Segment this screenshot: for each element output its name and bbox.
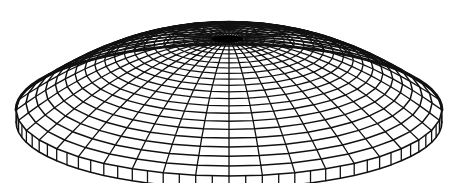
dome-meridian — [243, 41, 418, 140]
dome-meridian — [39, 41, 215, 140]
dome-figure — [0, 0, 456, 183]
wireframe-dome-drawing — [0, 0, 456, 183]
dome-apex — [212, 35, 244, 43]
